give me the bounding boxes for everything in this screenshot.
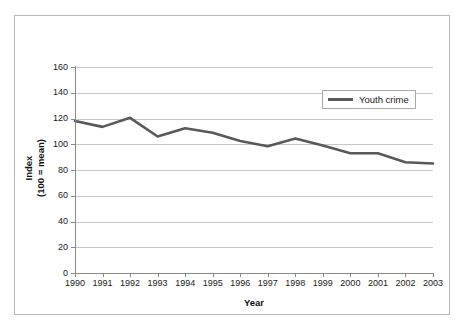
xtick-label-1999: 1999 <box>308 279 338 288</box>
xtick-mark-1998 <box>295 273 296 277</box>
xtick-label-1994: 1994 <box>170 279 200 288</box>
xtick-mark-1990 <box>75 273 76 277</box>
xtick-mark-1993 <box>158 273 159 277</box>
axis-y-line <box>75 66 76 274</box>
xtick-mark-2001 <box>378 273 379 277</box>
axis-x-line <box>75 273 433 274</box>
y-axis-title-line2: (100 = mean) <box>35 139 47 197</box>
y-axis-title: Index (100 = mean) <box>12 130 58 206</box>
xtick-label-1991: 1991 <box>88 279 118 288</box>
chart-screenshot: 160 140 120 100 80 60 40 20 0 1990199119… <box>0 0 465 333</box>
xtick-label-1992: 1992 <box>115 279 145 288</box>
xtick-mark-2002 <box>405 273 406 277</box>
xtick-mark-1995 <box>213 273 214 277</box>
xtick-mark-1994 <box>185 273 186 277</box>
legend-swatch-youth-crime <box>328 98 353 101</box>
xtick-label-2002: 2002 <box>390 279 420 288</box>
xtick-label-2003: 2003 <box>418 279 448 288</box>
xtick-label-1995: 1995 <box>198 279 228 288</box>
chart-legend: Youth crime <box>322 90 416 109</box>
xtick-label-1997: 1997 <box>253 279 283 288</box>
xtick-label-2001: 2001 <box>363 279 393 288</box>
xtick-mark-1991 <box>103 273 104 277</box>
xtick-mark-2000 <box>350 273 351 277</box>
xtick-mark-1999 <box>323 273 324 277</box>
xtick-label-1993: 1993 <box>143 279 173 288</box>
xtick-mark-1992 <box>130 273 131 277</box>
xtick-label-1996: 1996 <box>225 279 255 288</box>
y-axis-title-line1: Index <box>23 139 35 197</box>
legend-label-youth-crime: Youth crime <box>359 94 409 105</box>
xtick-mark-1997 <box>268 273 269 277</box>
x-axis-title: Year <box>75 297 433 308</box>
xtick-label-1998: 1998 <box>280 279 310 288</box>
xtick-mark-1996 <box>240 273 241 277</box>
xtick-mark-2003 <box>433 273 434 277</box>
xtick-label-1990: 1990 <box>60 279 90 288</box>
xtick-label-2000: 2000 <box>335 279 365 288</box>
